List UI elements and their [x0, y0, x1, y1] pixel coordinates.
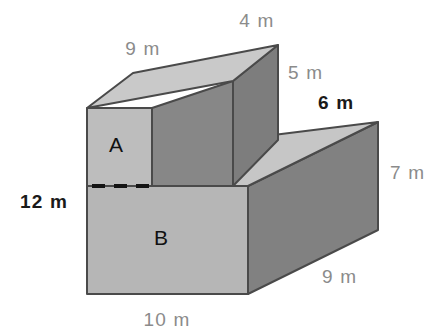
dimension-label-12m-total-height: 12 m — [20, 191, 68, 212]
step-solid-diagram: 9 m 4 m 5 m 6 m 7 m 9 m 12 m 10 m A B — [0, 0, 444, 336]
face-label-a: A — [109, 133, 123, 156]
dimension-label-5m-upper-height: 5 m — [288, 62, 323, 83]
dimension-label-6m-step-depth: 6 m — [318, 92, 354, 113]
face-label-b: B — [154, 226, 168, 249]
upper-inner-side-face — [152, 81, 233, 186]
dimension-label-10m-front-width: 10 m — [143, 309, 190, 330]
dimension-label-4m-top: 4 m — [239, 10, 274, 31]
figure-container: 9 m 4 m 5 m 6 m 7 m 9 m 12 m 10 m A B — [0, 0, 444, 336]
dimension-label-9m-top-left: 9 m — [125, 38, 160, 59]
dimension-label-9m-lower-depth: 9 m — [322, 266, 357, 287]
dimension-label-7m-lower-height: 7 m — [390, 162, 425, 183]
